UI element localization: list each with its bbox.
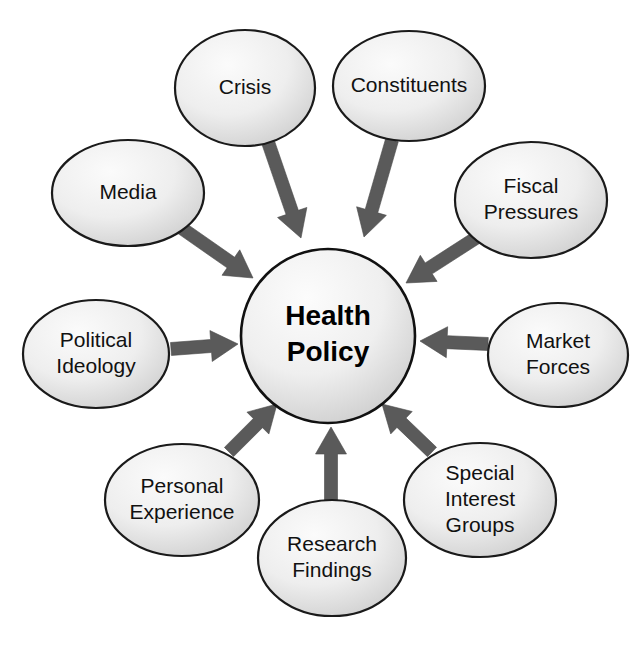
node-label-research-findings: Research [287,532,377,555]
node-constituents[interactable]: Constituents [333,31,485,141]
arrow-constituents-to-center [357,138,399,237]
node-label-special-interest-groups: Interest [445,487,515,510]
arrow-political-ideology-to-center [171,331,238,362]
node-label-fiscal-pressures: Fiscal [504,174,559,197]
node-label-market-forces: Market [526,329,590,352]
center-node-layer: HealthPolicy [241,249,415,423]
node-label-personal-experience: Personal [141,474,224,497]
node-health-policy[interactable]: HealthPolicy [241,249,415,423]
arrow-fiscal-pressures-to-center [406,231,483,283]
node-fiscal-pressures[interactable]: FiscalPressures [455,142,607,258]
node-label-special-interest-groups: Special [446,461,515,484]
node-label-fiscal-pressures: Pressures [484,200,579,223]
arrow-personal-experience-to-center [224,404,277,457]
node-label-political-ideology: Political [60,328,132,351]
node-label-crisis: Crisis [219,75,272,98]
center-label-line2: Policy [287,336,370,367]
node-label-personal-experience: Experience [129,500,234,523]
node-label-political-ideology: Ideology [56,354,136,377]
health-policy-diagram: CrisisConstituentsMediaFiscalPressuresPo… [0,0,641,645]
center-label-line1: Health [285,300,371,331]
node-label-constituents: Constituents [351,73,468,96]
arrow-research-findings-to-center [316,427,347,500]
node-research-findings[interactable]: ResearchFindings [258,500,406,616]
arrow-media-to-center [176,222,253,278]
node-market-forces[interactable]: MarketForces [488,303,628,407]
arrow-special-interest-groups-to-center [382,404,437,457]
node-label-research-findings: Findings [292,558,371,581]
arrow-crisis-to-center [262,140,307,238]
node-label-special-interest-groups: Groups [446,513,515,536]
node-label-media: Media [99,180,157,203]
diagram-canvas: CrisisConstituentsMediaFiscalPressuresPo… [0,0,641,645]
node-political-ideology[interactable]: PoliticalIdeology [23,300,169,408]
arrow-market-forces-to-center [420,327,488,358]
node-label-market-forces: Forces [526,355,590,378]
node-crisis[interactable]: Crisis [175,30,315,146]
node-personal-experience[interactable]: PersonalExperience [105,444,259,556]
node-media[interactable]: Media [52,140,204,246]
node-special-interest-groups[interactable]: SpecialInterestGroups [404,443,556,557]
